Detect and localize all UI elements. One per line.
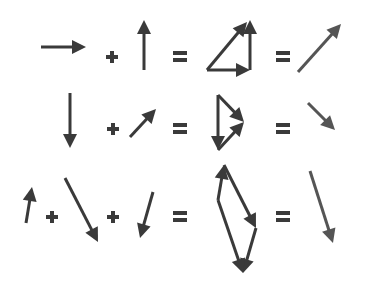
row-2 [63, 93, 335, 150]
construct-right-arrow-icon [207, 63, 250, 77]
vector-up-right-arrow-icon [130, 109, 156, 137]
vector-long-down-right-arrow-icon [65, 178, 98, 242]
vector-up-arrow-icon [137, 20, 151, 70]
vector-right-arrow-icon [41, 40, 86, 54]
equals-operator [276, 211, 290, 222]
construction-group [211, 95, 244, 150]
plus-operator [106, 51, 118, 63]
result-down-right-arrow-icon [308, 103, 335, 130]
diagram-layer [23, 20, 341, 273]
result-up-right-arrow-icon [298, 24, 341, 72]
plus-operator [107, 211, 119, 223]
vector-addition-diagram [0, 0, 374, 294]
equals-operator [173, 123, 187, 134]
construct-sum-arrow-icon [207, 22, 247, 70]
row-3 [23, 165, 336, 273]
plus-operator [46, 211, 58, 223]
equals-operator [173, 51, 187, 62]
construction-group [207, 20, 257, 77]
vector-short-down-left-arrow-icon [137, 192, 153, 238]
equals-operator [276, 51, 290, 62]
row-1 [41, 20, 341, 77]
vector-down-arrow-icon [63, 93, 77, 148]
construct-sum-arrow-icon [218, 200, 245, 273]
plus-operator [107, 123, 119, 135]
construction-group [215, 165, 256, 273]
equals-operator [173, 211, 187, 222]
vector-short-up-arrow-icon [23, 187, 37, 223]
result-down-arrow-icon [310, 171, 335, 243]
construct-sum-arrow-icon [218, 95, 244, 122]
construct-down-arrow-icon [211, 95, 225, 150]
construct-long-down-right-arrow-icon [224, 165, 256, 228]
equals-operator [276, 123, 290, 134]
